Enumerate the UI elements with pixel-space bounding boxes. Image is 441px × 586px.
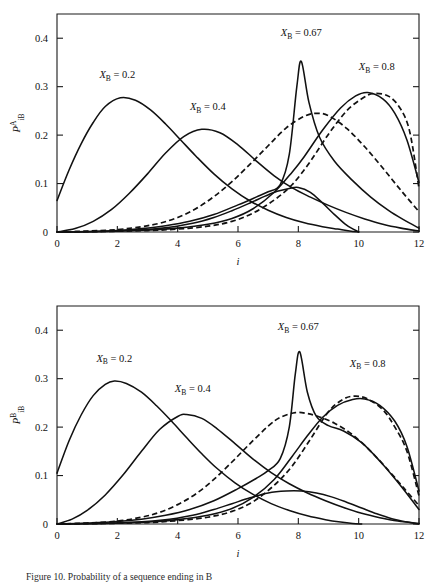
x-tick-label: 8	[296, 238, 301, 249]
curve-dashed	[57, 412, 419, 524]
y-tick-label: 0.3	[35, 373, 48, 384]
x-tick-label: 12	[414, 238, 425, 249]
x-axis-title: i	[237, 256, 240, 267]
x-tick-label: 2	[115, 530, 120, 541]
y-tick-label: 0.3	[35, 81, 48, 92]
curve-solid	[57, 352, 419, 524]
x-tick-label: 4	[175, 530, 181, 541]
curve-annotation: XB = 0.4	[189, 101, 227, 115]
y-tick-label: 0.1	[35, 178, 48, 189]
figure-page: 00.10.20.30.4024681012iPAiBXB = 0.2XB = …	[0, 0, 441, 586]
curve-solid	[57, 92, 419, 232]
curve-solid	[57, 414, 419, 524]
curve-annotation: XB = 0.2	[95, 353, 132, 367]
y-tick-label: 0.2	[35, 422, 48, 433]
x-axis-title: i	[237, 548, 240, 559]
chart-top: 00.10.20.30.4024681012iPAiBXB = 0.2XB = …	[0, 0, 441, 286]
curve-dashed	[57, 113, 419, 232]
x-tick-label: 6	[235, 530, 240, 541]
x-tick-label: 12	[414, 530, 425, 541]
y-tick-label: 0	[43, 519, 48, 530]
svg-text:PAiB: PAiB	[9, 114, 26, 134]
y-axis-title: PBiB	[9, 406, 26, 425]
plot-frame	[57, 306, 419, 524]
curve-dashed	[57, 396, 419, 524]
chart-panel-top: 00.10.20.30.4024681012iPAiBXB = 0.2XB = …	[0, 0, 441, 286]
y-tick-label: 0.4	[35, 325, 49, 336]
y-tick-label: 0.2	[35, 130, 48, 141]
curve-annotation: XB = 0.67	[280, 27, 322, 41]
x-tick-label: 4	[175, 238, 181, 249]
chart-panel-bottom: 00.10.20.30.4024681012iPBiBXB = 0.2XB = …	[0, 292, 441, 578]
curve-annotation: XB = 0.8	[349, 358, 386, 372]
y-tick-label: 0.1	[35, 470, 48, 481]
x-tick-label: 10	[353, 530, 364, 541]
curve-annotation: XB = 0.67	[277, 321, 319, 335]
figure-caption: Figure 10. Probability of a sequence end…	[26, 571, 426, 583]
plot-frame	[57, 14, 419, 232]
x-tick-label: 0	[54, 530, 59, 541]
y-tick-label: 0.4	[35, 33, 49, 44]
x-tick-label: 2	[115, 238, 120, 249]
curve-dashed	[57, 93, 419, 232]
y-tick-label: 0	[43, 227, 48, 238]
x-tick-label: 8	[296, 530, 301, 541]
curve-solid	[57, 398, 419, 524]
x-tick-label: 10	[353, 238, 364, 249]
y-axis-title: PAiB	[9, 114, 26, 134]
curve-annotation: XB = 0.8	[358, 61, 395, 75]
svg-text:PBiB: PBiB	[9, 406, 26, 425]
chart-bottom: 00.10.20.30.4024681012iPBiBXB = 0.2XB = …	[0, 292, 441, 578]
x-tick-label: 0	[54, 238, 59, 249]
x-tick-label: 6	[235, 238, 240, 249]
curve-annotation: XB = 0.2	[98, 69, 135, 83]
curve-annotation: XB = 0.4	[174, 383, 212, 397]
